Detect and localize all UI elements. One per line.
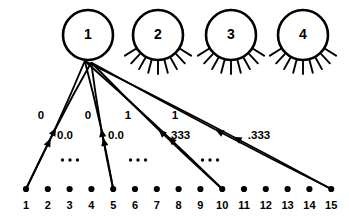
leaf-label-12: 12 <box>260 199 272 211</box>
node-3-ray <box>212 58 218 69</box>
leaf-label-8: 8 <box>176 199 182 211</box>
node-4-label: 4 <box>299 26 307 42</box>
leaf-label-1: 1 <box>23 199 29 211</box>
node-2-ray <box>180 49 191 56</box>
ellipsis-3-dot <box>216 158 219 161</box>
leaf-label-4: 4 <box>88 199 95 211</box>
node-4-ray <box>284 58 290 69</box>
node-3-label: 3 <box>227 26 235 42</box>
ellipsis-1-dot <box>76 158 79 161</box>
ellipsis-2 <box>129 158 147 161</box>
arrowhead-layer <box>44 128 243 148</box>
node-3-ray <box>221 61 224 73</box>
edge-weight-5: 1 <box>125 109 132 121</box>
leaf-dot-6[interactable] <box>132 186 138 192</box>
ellipsis-1 <box>61 158 79 161</box>
node-4-ray <box>293 61 296 73</box>
ellipsis-2-dot <box>129 158 132 161</box>
node-2-ray <box>131 54 140 63</box>
ellipsis-1-dot <box>61 158 64 161</box>
edge-node1-to-leaf1 <box>26 63 91 190</box>
node-2-ray <box>125 49 136 56</box>
leaf-dot-3[interactable] <box>67 186 73 192</box>
node-2-ray <box>148 61 151 73</box>
ellipsis-3-dot <box>201 158 204 161</box>
edge-weight-8: .333 <box>248 129 270 141</box>
leaf-dot-2[interactable] <box>45 186 51 192</box>
node-4-ray <box>325 49 336 56</box>
edge-weight-1: 0 <box>38 109 44 121</box>
leaf-label-6: 6 <box>132 199 138 211</box>
node-2-ray <box>165 61 168 73</box>
edge-weight-3: 0 <box>85 109 91 121</box>
node-3-ray <box>238 61 241 73</box>
leaf-dot-7[interactable] <box>154 186 160 192</box>
node-2-ray <box>171 58 177 69</box>
edge-weight-2: 0.0 <box>57 129 73 141</box>
node-3-ray <box>249 54 258 63</box>
leaf-dot-9[interactable] <box>197 186 203 192</box>
node-4-ray <box>310 61 313 73</box>
leaf-label-13: 13 <box>281 199 293 211</box>
edge-weight-7: 1 <box>172 109 179 121</box>
leaf-dot-13[interactable] <box>285 186 291 192</box>
node-4-ray <box>270 49 281 56</box>
node-4-ray <box>316 58 322 69</box>
leaf-label-10: 10 <box>216 199 228 211</box>
leaf-label-15: 15 <box>325 199 337 211</box>
ellipsis-3 <box>201 158 219 161</box>
leaf-label-7: 7 <box>154 199 160 211</box>
node-4-ray <box>321 54 330 63</box>
leaf-dot-1[interactable] <box>23 186 29 192</box>
node-2-label: 2 <box>154 26 162 42</box>
edge-layer <box>26 61 331 189</box>
leaf-label-5: 5 <box>110 199 116 211</box>
ellipsis-2-dot <box>144 158 147 161</box>
leaf-label-2: 2 <box>45 199 51 211</box>
leaf-dot-14[interactable] <box>306 186 312 192</box>
leaf-layer: 123456789101112131415 <box>23 186 337 211</box>
ellipsis-2-dot <box>136 158 139 161</box>
ellipsis-1-dot <box>68 158 71 161</box>
ellipsis-layer <box>61 158 219 161</box>
diagram-canvas: 1234 123456789101112131415 00.000.01.333… <box>0 0 349 216</box>
leaf-label-11: 11 <box>238 199 250 211</box>
node-1-label: 1 <box>84 26 92 42</box>
ellipsis-3-dot <box>208 158 211 161</box>
leaf-dot-12[interactable] <box>263 186 269 192</box>
leaf-dot-11[interactable] <box>241 186 247 192</box>
edge-weight-4: 0.0 <box>108 129 124 141</box>
leaf-dot-4[interactable] <box>88 186 94 192</box>
leaf-dot-8[interactable] <box>176 186 182 192</box>
leaf-label-9: 9 <box>197 199 203 211</box>
node-3-ray <box>198 49 209 56</box>
edge-weight-6: .333 <box>168 129 190 141</box>
leaf-dot-10[interactable] <box>219 186 225 192</box>
diagram-svg: 1234 123456789101112131415 00.000.01.333… <box>0 0 349 216</box>
node-circle-layer: 1234 <box>63 10 328 60</box>
node-2-ray <box>176 54 185 63</box>
leaf-dot-15[interactable] <box>328 186 334 192</box>
leaf-dot-5[interactable] <box>110 186 116 192</box>
leaf-label-3: 3 <box>67 199 73 211</box>
node-4-ray <box>276 54 285 63</box>
node-3-ray <box>253 49 264 56</box>
arrowhead-to-node1-leaf5 <box>99 129 106 138</box>
node-3-ray <box>204 54 213 63</box>
leaf-label-14: 14 <box>303 199 316 211</box>
node-2-ray <box>139 58 145 69</box>
node-3-ray <box>244 58 250 69</box>
